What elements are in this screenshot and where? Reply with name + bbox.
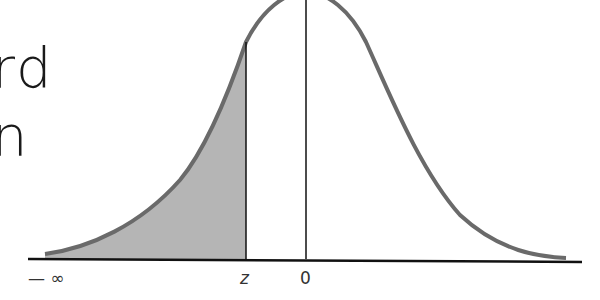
baseline-axis xyxy=(28,259,582,262)
normal-curve-diagram xyxy=(0,0,600,300)
z-label: z xyxy=(240,268,249,288)
shaded-area xyxy=(45,42,246,259)
neg-infinity-label: — ∞ xyxy=(28,268,65,288)
zero-label: 0 xyxy=(300,268,311,288)
